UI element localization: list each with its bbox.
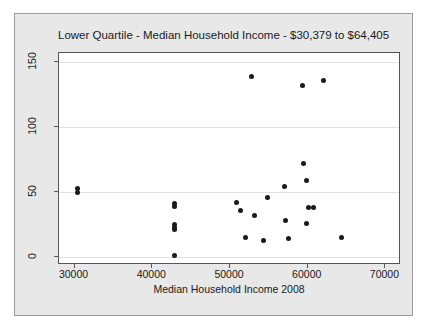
data-point — [265, 195, 270, 200]
data-point — [304, 221, 309, 226]
x-tick-label: 30000 — [59, 268, 88, 280]
gridline-y — [59, 127, 399, 128]
data-point — [300, 83, 305, 88]
data-point — [234, 200, 239, 205]
data-point — [261, 238, 266, 243]
data-point — [172, 204, 177, 209]
y-tick-mark — [54, 126, 58, 127]
data-point — [172, 253, 177, 258]
data-point — [249, 74, 254, 79]
data-point — [252, 213, 257, 218]
data-point — [75, 190, 80, 195]
x-tick-label: 40000 — [137, 268, 166, 280]
data-point — [286, 236, 291, 241]
chart-title: Lower Quartile - Median Household Income… — [58, 28, 404, 42]
gridline-y — [59, 62, 399, 63]
data-point — [283, 218, 288, 223]
data-point — [172, 227, 177, 232]
data-point — [339, 235, 344, 240]
data-point — [311, 205, 316, 210]
y-tick-mark — [54, 61, 58, 62]
y-tick-label: 100 — [26, 117, 38, 135]
data-point — [321, 78, 326, 83]
data-point — [301, 161, 306, 166]
x-tick-label: 70000 — [370, 268, 399, 280]
gridline-y — [59, 257, 399, 258]
data-point — [238, 208, 243, 213]
y-tick-label: 0 — [26, 253, 38, 259]
data-point — [243, 235, 248, 240]
x-tick-label: 50000 — [214, 268, 243, 280]
gridline-y — [59, 192, 399, 193]
plot-area — [58, 52, 400, 264]
y-tick-label: 150 — [26, 52, 38, 70]
y-tick-mark — [54, 191, 58, 192]
x-axis-label: Median Household Income 2008 — [58, 283, 400, 295]
y-tick-mark — [54, 256, 58, 257]
figure-container: Lower Quartile - Median Household Income… — [0, 0, 427, 331]
x-tick-label: 60000 — [292, 268, 321, 280]
data-point — [282, 184, 287, 189]
y-tick-label: 50 — [26, 185, 38, 197]
data-point — [304, 178, 309, 183]
